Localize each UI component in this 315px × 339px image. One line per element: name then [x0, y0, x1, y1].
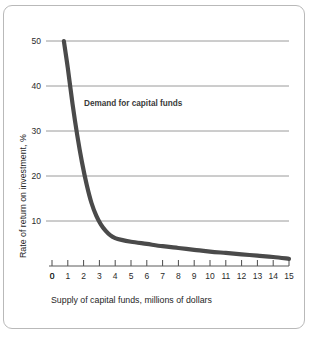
figure-frame: 01020304050 0123456789101112131415 Deman…	[3, 5, 305, 329]
x-axis-tick-label: 14	[268, 271, 278, 281]
x-axis-tick-label: 1	[65, 271, 70, 281]
x-axis-tick-label: 0	[50, 271, 55, 281]
x-axis-title: Supply of capital funds, millions of dol…	[51, 295, 212, 305]
x-axis-tick-label: 7	[160, 271, 165, 281]
x-axis-ticks-group	[52, 260, 289, 266]
x-axis-tick-label: 12	[237, 271, 247, 281]
demand-curve-chart: 01020304050 0123456789101112131415 Deman…	[4, 6, 306, 330]
curve-annotation-label: Demand for capital funds	[84, 99, 183, 108]
y-axis-tick-label: 40	[32, 81, 42, 91]
x-axis-tick-label: 15	[284, 271, 294, 281]
demand-curve-line	[64, 41, 289, 259]
x-axis-tick-label: 6	[144, 271, 149, 281]
y-axis-tick-label: 10	[32, 216, 42, 226]
x-axis-tick-labels-group: 0123456789101112131415	[50, 271, 294, 281]
y-axis-tick-labels-group: 01020304050	[32, 36, 55, 281]
x-axis-tick-label: 5	[129, 271, 134, 281]
y-axis-tick-label: 20	[32, 171, 42, 181]
x-axis-tick-label: 13	[253, 271, 263, 281]
x-axis-tick-label: 3	[97, 271, 102, 281]
x-axis-tick-label: 2	[81, 271, 86, 281]
y-axis-title: Rate of return on investment, %	[18, 134, 28, 258]
x-axis-tick-label: 8	[176, 271, 181, 281]
y-axis-tick-label: 50	[32, 36, 42, 46]
y-axis-tick-label: 30	[32, 126, 42, 136]
x-axis-tick-label: 4	[113, 271, 118, 281]
gridlines-group	[46, 41, 289, 221]
x-axis-tick-label: 9	[192, 271, 197, 281]
x-axis-tick-label: 10	[205, 271, 215, 281]
x-axis-tick-label: 11	[221, 271, 230, 281]
